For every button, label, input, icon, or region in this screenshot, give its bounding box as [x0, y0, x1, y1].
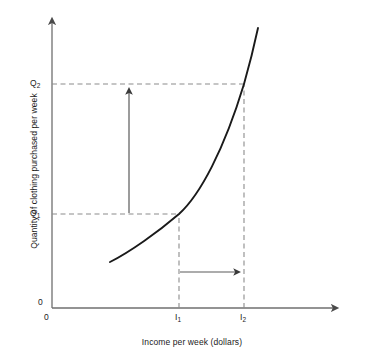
chart-plot-area: [0, 0, 371, 363]
engel-curve-line: [110, 28, 258, 262]
x-axis-title: Income per week (dollars): [72, 337, 312, 347]
x-tick-i1-subscript: 1: [177, 316, 181, 323]
y-tick-label-q1: Q1: [30, 208, 40, 218]
y-tick-q2-base: Q: [30, 78, 37, 88]
y-tick-q2-subscript: 2: [37, 82, 41, 89]
y-tick-q1-base: Q: [30, 208, 37, 218]
y-tick-label-q2: Q2: [30, 78, 40, 88]
x-axis-origin-label: 0: [44, 312, 49, 322]
x-tick-label-i2: I2: [240, 312, 246, 322]
y-axis-origin-label: 0: [38, 297, 43, 307]
x-tick-i2-subscript: 2: [242, 316, 246, 323]
y-tick-q1-subscript: 1: [37, 212, 41, 219]
engel-curve-chart: Quantity of clothing purchased per week …: [0, 0, 371, 363]
x-tick-label-i1: I1: [175, 312, 181, 322]
